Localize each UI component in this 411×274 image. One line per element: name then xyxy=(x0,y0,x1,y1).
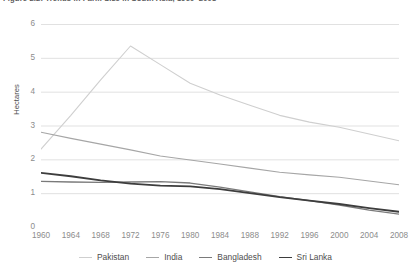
x-tick-label: 2008 xyxy=(382,231,411,240)
series-line-bangladesh xyxy=(41,181,399,214)
legend: PakistanIndiaBangladeshSri Lanka xyxy=(0,252,411,262)
legend-swatch-icon xyxy=(199,257,212,258)
figure-container: Figure 2.2: Trends in Farm Size in South… xyxy=(0,0,411,274)
plot-area xyxy=(41,24,399,227)
legend-label: Sri Lanka xyxy=(297,252,332,262)
y-tick-label: 5 xyxy=(9,54,35,62)
legend-swatch-icon xyxy=(79,257,92,258)
series-line-india xyxy=(41,132,399,184)
legend-swatch-icon xyxy=(279,257,292,258)
y-tick-label: 4 xyxy=(9,88,35,96)
legend-item-pakistan[interactable]: Pakistan xyxy=(79,252,129,262)
legend-item-india[interactable]: India xyxy=(146,252,182,262)
series-lines xyxy=(41,46,399,214)
legend-swatch-icon xyxy=(146,257,159,258)
legend-item-sri-lanka[interactable]: Sri Lanka xyxy=(279,252,332,262)
legend-label: Bangladesh xyxy=(217,252,261,262)
y-tick-label: 6 xyxy=(9,20,35,28)
y-tick-label: 3 xyxy=(9,122,35,130)
legend-label: India xyxy=(164,252,182,262)
series-line-pakistan xyxy=(41,46,399,149)
legend-item-bangladesh[interactable]: Bangladesh xyxy=(199,252,261,262)
y-tick-label: 1 xyxy=(9,189,35,197)
page-title: Figure 2.2: Trends in Farm Size in South… xyxy=(3,0,216,4)
y-tick-label: 0 xyxy=(9,223,35,231)
gridlines xyxy=(41,25,399,228)
line-chart-svg xyxy=(41,24,399,227)
y-tick-label: 2 xyxy=(9,155,35,163)
legend-label: Pakistan xyxy=(97,252,129,262)
